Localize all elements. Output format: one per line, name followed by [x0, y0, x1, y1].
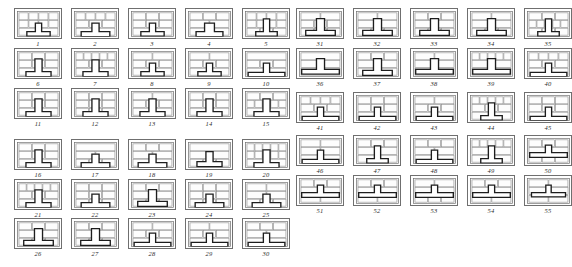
pattern-cell: 4 — [185, 8, 233, 48]
pattern-cell: 23 — [128, 179, 176, 219]
pattern-panel-19 — [185, 139, 233, 170]
bond-diagram — [131, 142, 174, 168]
pattern-caption: 46 — [296, 167, 344, 175]
bond-diagram — [245, 51, 288, 77]
pattern-panel-2 — [71, 8, 119, 39]
bond-diagram — [245, 91, 288, 117]
pattern-caption: 27 — [71, 250, 119, 258]
pattern-caption: 15 — [242, 120, 290, 128]
bond-diagram — [245, 142, 288, 168]
pattern-panel-55 — [524, 175, 572, 206]
pattern-panel-34 — [467, 8, 515, 39]
pattern-caption: 51 — [296, 207, 344, 215]
pattern-cell: 31 — [296, 8, 344, 48]
pattern-caption: 53 — [410, 207, 458, 215]
bond-diagram — [299, 11, 342, 37]
pattern-cell: 42 — [353, 92, 401, 132]
bond-diagram — [413, 138, 456, 164]
pattern-caption: 52 — [353, 207, 401, 215]
pattern-caption: 31 — [296, 40, 344, 48]
pattern-panel-47 — [353, 135, 401, 166]
pattern-panel-12 — [71, 88, 119, 119]
pattern-cell: 36 — [296, 48, 344, 88]
pattern-caption: 3 — [128, 40, 176, 48]
pattern-cell: 22 — [71, 179, 119, 219]
pattern-caption: 47 — [353, 167, 401, 175]
bond-diagram — [299, 178, 342, 204]
bond-diagram — [527, 95, 570, 121]
bond-diagram — [470, 51, 513, 77]
pattern-panel-4 — [185, 8, 233, 39]
bond-diagram — [188, 11, 231, 37]
pattern-cell: 15 — [242, 88, 290, 128]
pattern-caption: 7 — [71, 80, 119, 88]
pattern-caption: 28 — [128, 250, 176, 258]
bond-diagram — [17, 91, 60, 117]
pattern-panel-23 — [128, 179, 176, 210]
bond-diagram — [299, 138, 342, 164]
pattern-caption: 38 — [410, 80, 458, 88]
bond-diagram — [527, 11, 570, 37]
pattern-cell: 55 — [524, 175, 572, 215]
pattern-cell: 37 — [353, 48, 401, 88]
bond-diagram — [245, 182, 288, 208]
pattern-cell: 38 — [410, 48, 458, 88]
bond-diagram — [131, 182, 174, 208]
bond-diagram — [188, 91, 231, 117]
pattern-panel-10 — [242, 48, 290, 79]
bond-diagram — [17, 11, 60, 37]
pattern-panel-52 — [353, 175, 401, 206]
pattern-caption: 54 — [467, 207, 515, 215]
pattern-cell: 21 — [14, 179, 62, 219]
pattern-caption: 40 — [524, 80, 572, 88]
bond-diagram — [17, 142, 60, 168]
pattern-cell: 8 — [128, 48, 176, 88]
pattern-caption: 41 — [296, 124, 344, 132]
pattern-cell: 27 — [71, 218, 119, 258]
pattern-cell: 53 — [410, 175, 458, 215]
pattern-panel-28 — [128, 218, 176, 249]
pattern-panel-45 — [524, 92, 572, 123]
pattern-caption: 11 — [14, 120, 62, 128]
bond-diagram — [188, 51, 231, 77]
pattern-caption: 5 — [242, 40, 290, 48]
bond-diagram — [356, 138, 399, 164]
pattern-panel-44 — [467, 92, 515, 123]
bond-diagram — [413, 95, 456, 121]
pattern-caption: 17 — [71, 171, 119, 179]
bond-diagram — [188, 182, 231, 208]
pattern-cell: 11 — [14, 88, 62, 128]
pattern-panel-16 — [14, 139, 62, 170]
bond-diagram — [188, 142, 231, 168]
pattern-panel-24 — [185, 179, 233, 210]
pattern-caption: 48 — [410, 167, 458, 175]
bond-diagram — [470, 138, 513, 164]
pattern-panel-37 — [353, 48, 401, 79]
bond-diagram — [245, 11, 288, 37]
pattern-caption: 36 — [296, 80, 344, 88]
pattern-caption: 6 — [14, 80, 62, 88]
pattern-panel-17 — [71, 139, 119, 170]
pattern-cell: 24 — [185, 179, 233, 219]
bond-diagram — [17, 221, 60, 247]
pattern-panel-39 — [467, 48, 515, 79]
pattern-cell: 46 — [296, 135, 344, 175]
bond-diagram — [299, 51, 342, 77]
pattern-cell: 52 — [353, 175, 401, 215]
pattern-panel-29 — [185, 218, 233, 249]
bond-diagram — [470, 178, 513, 204]
pattern-panel-21 — [14, 179, 62, 210]
bond-diagram — [17, 182, 60, 208]
pattern-cell: 7 — [71, 48, 119, 88]
bond-diagram — [356, 51, 399, 77]
pattern-panel-41 — [296, 92, 344, 123]
pattern-cell: 10 — [242, 48, 290, 88]
pattern-caption: 18 — [128, 171, 176, 179]
pattern-cell: 47 — [353, 135, 401, 175]
pattern-panel-27 — [71, 218, 119, 249]
pattern-caption: 2 — [71, 40, 119, 48]
bond-diagram — [470, 11, 513, 37]
pattern-panel-11 — [14, 88, 62, 119]
pattern-cell: 45 — [524, 92, 572, 132]
pattern-caption: 20 — [242, 171, 290, 179]
